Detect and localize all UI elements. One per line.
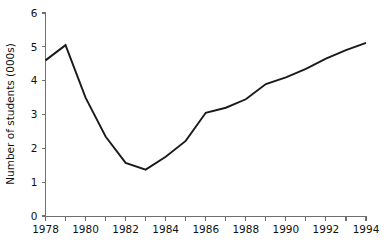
x-tick-label: 1986: [192, 223, 219, 235]
y-axis-title: Number of students (000s): [4, 43, 16, 185]
x-tick-label: 1994: [353, 223, 380, 235]
x-tick-label: 1988: [232, 223, 259, 235]
data-series-line: [46, 43, 367, 170]
y-tick-label: 6: [31, 7, 38, 19]
y-tick-label: 2: [31, 142, 38, 154]
x-tick-label: 1982: [112, 223, 139, 235]
y-tick-label: 1: [31, 176, 38, 188]
x-tick-label: 1978: [32, 223, 59, 235]
y-axis-tick-labels: 0123456: [31, 7, 38, 222]
y-tick-label: 0: [31, 210, 38, 222]
x-axis-tick-labels: 197819801982198419861988199019921994: [32, 223, 380, 235]
x-tick-label: 1990: [273, 223, 300, 235]
line-chart: 0123456 19781980198219841986198819901992…: [0, 0, 384, 247]
x-tick-label: 1984: [152, 223, 179, 235]
x-tick-label: 1992: [313, 223, 340, 235]
y-tick-label: 5: [31, 41, 38, 53]
y-tick-label: 4: [31, 74, 38, 86]
x-tick-label: 1980: [72, 223, 99, 235]
chart-plot-area: 0123456 19781980198219841986198819901992…: [0, 0, 384, 247]
y-tick-label: 3: [31, 108, 38, 120]
x-axis: 197819801982198419861988199019921994: [32, 216, 380, 235]
y-axis: 0123456: [31, 7, 46, 222]
